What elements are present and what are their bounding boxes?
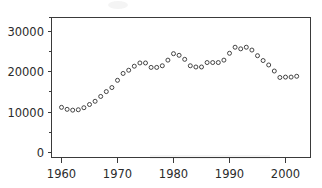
- data-point: [71, 108, 75, 112]
- x-tick-label-1990: 1990: [215, 167, 244, 181]
- data-point: [132, 64, 136, 68]
- data-point: [160, 64, 164, 68]
- data-point: [216, 61, 220, 65]
- data-point: [239, 47, 243, 51]
- data-point: [183, 57, 187, 61]
- data-point: [211, 61, 215, 65]
- data-point: [121, 71, 125, 75]
- x-tick-major-1960: 1960: [47, 158, 76, 182]
- data-point: [289, 75, 293, 79]
- x-tick-major-1980: 1980: [159, 158, 188, 182]
- x-tick-label-1980: 1980: [159, 167, 188, 181]
- y-tick-major-0: 0: [37, 146, 52, 160]
- x-tick-major-1990: 1990: [215, 158, 244, 182]
- data-point: [256, 54, 260, 58]
- data-point: [295, 74, 299, 78]
- data-point: [177, 53, 181, 57]
- data-point: [205, 61, 209, 65]
- chart-figure: 30000 20000 10000 0 1960: [0, 0, 322, 188]
- data-point: [127, 68, 131, 72]
- y-tick-label-20000: 20000: [7, 65, 44, 79]
- data-point: [222, 58, 226, 62]
- data-point: [284, 75, 288, 79]
- data-point: [278, 75, 282, 79]
- y-axis: 30000 20000 10000 0: [7, 18, 51, 160]
- data-point: [88, 103, 92, 107]
- plot-frame: [52, 18, 311, 158]
- data-point: [99, 94, 103, 98]
- data-point: [244, 45, 248, 49]
- data-point: [261, 59, 265, 63]
- data-point: [228, 51, 232, 55]
- data-point: [82, 106, 86, 110]
- x-tick-major-1970: 1970: [103, 158, 132, 182]
- x-tick-major-2000: 2000: [271, 158, 300, 182]
- data-point: [60, 105, 64, 109]
- y-tick-major-10000: 10000: [7, 106, 51, 120]
- y-tick-major-30000: 30000: [7, 25, 51, 39]
- data-point: [138, 61, 142, 65]
- data-point: [65, 107, 69, 111]
- data-point: [149, 65, 153, 69]
- data-series-points: [60, 45, 299, 112]
- data-point: [188, 64, 192, 68]
- y-tick-label-30000: 30000: [7, 25, 44, 39]
- scatter-chart: 30000 20000 10000 0 1960: [0, 0, 322, 188]
- y-tick-label-0: 0: [37, 146, 44, 160]
- data-point: [104, 90, 108, 94]
- data-point: [233, 45, 237, 49]
- data-point: [250, 48, 254, 52]
- data-point: [116, 78, 120, 82]
- data-point: [93, 99, 97, 103]
- data-point: [194, 65, 198, 69]
- x-tick-label-1960: 1960: [47, 167, 76, 181]
- data-point: [172, 52, 176, 56]
- data-point: [267, 63, 271, 67]
- x-axis: 1960 1970 1980 1990 2000: [47, 158, 300, 182]
- data-point: [272, 69, 276, 73]
- y-tick-label-10000: 10000: [7, 106, 44, 120]
- x-tick-label-1970: 1970: [103, 167, 132, 181]
- y-tick-major-20000: 20000: [7, 65, 51, 79]
- data-point: [144, 61, 148, 65]
- data-point: [110, 86, 114, 90]
- data-point: [76, 108, 80, 112]
- x-tick-label-2000: 2000: [271, 167, 300, 181]
- scan-artifact: [108, 1, 128, 9]
- data-point: [200, 65, 204, 69]
- data-point: [155, 65, 159, 69]
- data-point: [166, 58, 170, 62]
